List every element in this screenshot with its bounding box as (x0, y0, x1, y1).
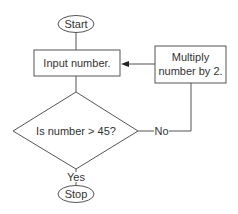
no-label: No (154, 125, 168, 137)
multiply-label-line1: Multiply (172, 51, 210, 63)
edge-no: No (138, 83, 191, 137)
flowchart: Start Input number. Multiply number by 2… (0, 0, 238, 214)
decision-label: Is number > 45? (36, 125, 116, 137)
input-node: Input number. (34, 50, 120, 76)
stop-node: Stop (58, 186, 94, 203)
multiply-node: Multiply number by 2. (155, 46, 226, 83)
edge-multiply-input (121, 61, 155, 67)
yes-label: Yes (67, 171, 85, 183)
start-label: Start (64, 18, 87, 30)
start-node: Start (58, 16, 94, 33)
input-label: Input number. (43, 57, 110, 69)
edge-yes: Yes (67, 169, 85, 186)
arrowhead-icon (121, 61, 129, 67)
multiply-label-line2: number by 2. (158, 65, 222, 77)
stop-label: Stop (65, 188, 88, 200)
decision-node: Is number > 45? (13, 92, 138, 169)
